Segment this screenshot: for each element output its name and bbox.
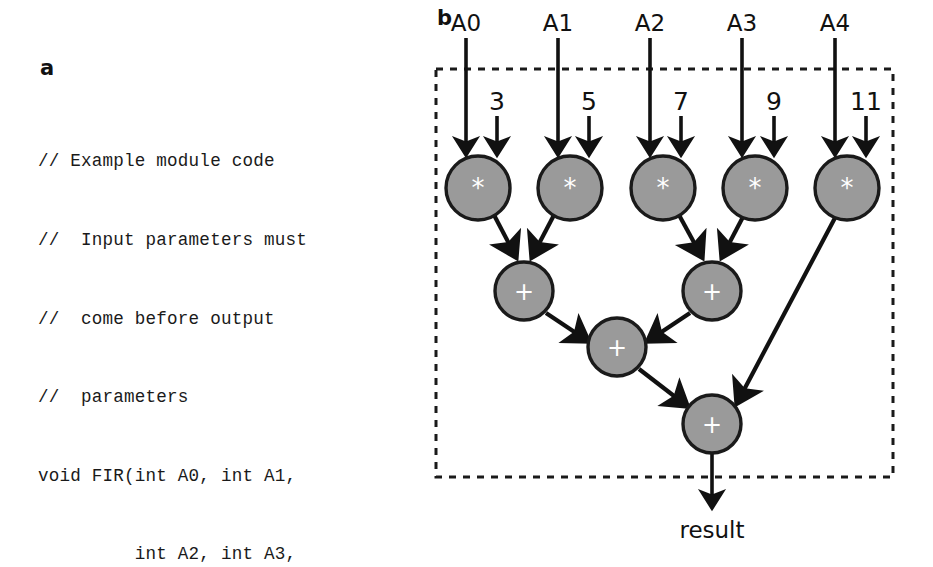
add-glyph: + (607, 334, 627, 362)
coefficient-label-4: 11 (850, 87, 882, 116)
multiply-glyph: * (749, 173, 762, 203)
multiply-node-0[interactable]: * (446, 156, 510, 220)
add-glyph: + (702, 411, 722, 439)
edge-add1-to-add2 (648, 313, 690, 341)
coefficient-label-0: 3 (489, 87, 505, 116)
add-node-3[interactable]: + (683, 395, 741, 453)
input-label-a0: A0 (451, 10, 481, 36)
input-label-a3: A3 (727, 10, 757, 36)
add-node-2[interactable]: + (588, 318, 646, 376)
coefficient-label-1: 5 (581, 87, 597, 116)
dataflow-diagram: * * * * * + (0, 0, 933, 567)
edge-mul4-to-add3 (737, 216, 836, 403)
output-label-result: result (679, 517, 744, 543)
add-glyph: + (702, 278, 722, 306)
multiply-glyph: * (657, 173, 670, 203)
coefficient-label-2: 7 (673, 87, 689, 116)
multiply-glyph: * (472, 173, 485, 203)
add-glyph: + (514, 278, 534, 306)
edge-add2-to-add3 (639, 369, 687, 406)
edge-mul3-to-add1 (722, 215, 744, 257)
edge-add0-to-add2 (546, 313, 588, 341)
multiply-glyph: * (564, 173, 577, 203)
coefficient-label-3: 9 (766, 87, 782, 116)
multiply-glyph: * (841, 173, 854, 203)
input-label-a1: A1 (543, 10, 573, 36)
multiply-node-4[interactable]: * (815, 156, 879, 220)
edge-mul1-to-add0 (532, 215, 554, 257)
edge-mul2-to-add1 (679, 215, 702, 257)
add-node-1[interactable]: + (683, 262, 741, 320)
figure-canvas: a // Example module code // Input parame… (0, 0, 933, 567)
multiply-node-2[interactable]: * (631, 156, 695, 220)
edge-mul0-to-add0 (494, 215, 516, 257)
input-label-a2: A2 (635, 10, 665, 36)
input-label-a4: A4 (820, 10, 850, 36)
multiply-node-3[interactable]: * (723, 156, 787, 220)
multiply-node-1[interactable]: * (538, 156, 602, 220)
add-node-0[interactable]: + (495, 262, 553, 320)
